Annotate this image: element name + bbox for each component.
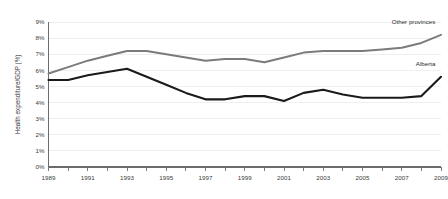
y-tick-label: 8% — [36, 34, 45, 41]
x-axis-tick-labels: 1989199119931995199719992001200320052007… — [42, 174, 448, 181]
x-tick-label: 2007 — [395, 174, 409, 181]
axes — [49, 22, 442, 167]
x-tick-label: 1999 — [238, 174, 252, 181]
series-label-other-provinces: Other provinces — [392, 18, 436, 25]
x-tick-label: 2005 — [356, 174, 370, 181]
x-tick-label: 2009 — [434, 174, 448, 181]
y-axis-tick-labels: 0%1%2%3%4%5%6%7%8%9% — [36, 18, 45, 170]
x-tick-label: 2003 — [316, 174, 330, 181]
x-axis-ticks — [49, 167, 442, 171]
x-tick-label: 1995 — [159, 174, 173, 181]
x-tick-label: 2001 — [277, 174, 291, 181]
line-chart: 0%1%2%3%4%5%6%7%8%9% 1989199119931995199… — [0, 0, 448, 199]
x-tick-label: 1991 — [81, 174, 95, 181]
y-tick-label: 6% — [36, 67, 45, 74]
x-tick-label: 1989 — [42, 174, 56, 181]
y-tick-label: 7% — [36, 50, 45, 57]
series-annotations: Other provincesAlberta — [392, 18, 436, 67]
y-tick-label: 0% — [36, 163, 45, 170]
series-lines — [49, 35, 442, 101]
y-tick-label: 9% — [36, 18, 45, 25]
y-axis-title: Health expenditure/GDP (%) — [14, 55, 22, 135]
y-tick-label: 4% — [36, 99, 45, 106]
y-tick-label: 2% — [36, 131, 45, 138]
y-tick-label: 5% — [36, 83, 45, 90]
y-tick-label: 3% — [36, 115, 45, 122]
x-tick-label: 1993 — [120, 174, 134, 181]
y-tick-label: 1% — [36, 147, 45, 154]
gridlines — [49, 22, 442, 167]
series-label-alberta: Alberta — [416, 60, 436, 67]
series-line-alberta — [49, 69, 442, 101]
x-tick-label: 1997 — [199, 174, 213, 181]
chart-container: 0%1%2%3%4%5%6%7%8%9% 1989199119931995199… — [0, 0, 448, 199]
